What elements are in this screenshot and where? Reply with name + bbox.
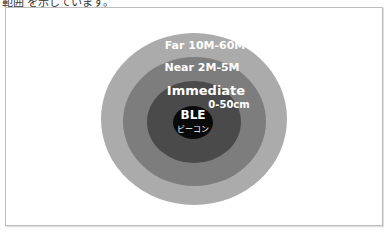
ble-label: BLE [181,108,206,122]
immediate-zone-label: Immediate [167,83,245,98]
diagram-frame: Far 10M-60M Near 2M-5M Immediate 0-50cm … [5,7,383,226]
immediate-zone-range: 0-50cm [208,99,249,110]
far-zone-label: Far 10M-60M [165,39,246,52]
beacon-label: ビーコン [177,123,209,134]
near-zone-label: Near 2M-5M [164,61,239,74]
